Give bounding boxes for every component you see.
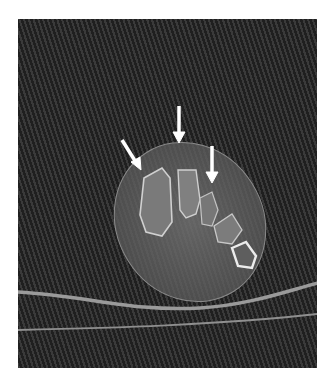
arrow-center-icon [173, 106, 185, 143]
table-lower-line [18, 314, 318, 330]
medial-cuneiform-bone [140, 168, 172, 236]
ct-image-overlay [0, 0, 332, 387]
intermediate-cuneiform-bone [178, 170, 200, 218]
